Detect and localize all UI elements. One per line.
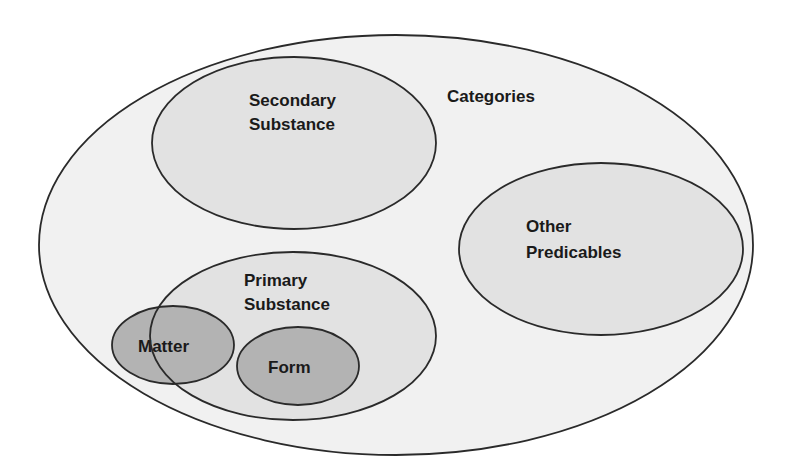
matter-label: Matter <box>138 337 189 356</box>
other-predicables-label-line1: Other <box>526 217 572 236</box>
primary-substance-label-line1: Primary <box>244 271 308 290</box>
form-label: Form <box>268 358 311 377</box>
categories-venn-diagram: Categories Secondary Substance Other Pre… <box>0 0 787 471</box>
primary-substance-label-line2: Substance <box>244 295 330 314</box>
secondary-substance-set: Secondary Substance <box>152 57 436 229</box>
other-predicables-label-line2: Predicables <box>526 243 621 262</box>
secondary-substance-label-line1: Secondary <box>249 91 336 110</box>
secondary-substance-label-line2: Substance <box>249 115 335 134</box>
other-predicables-set: Other Predicables <box>459 163 743 335</box>
matter-set: Matter <box>112 306 234 384</box>
categories-label: Categories <box>447 87 535 106</box>
secondary-substance-ellipse <box>152 57 436 229</box>
form-set: Form <box>237 327 359 405</box>
